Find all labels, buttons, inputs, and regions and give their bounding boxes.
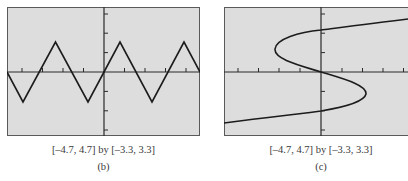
- caption-window-b: [–4.7, 4.7] by [–3.3, 3.3]: [7, 144, 200, 155]
- caption-label-b: (b): [7, 161, 200, 172]
- caption-window-c: [–4.7, 4.7] by [–3.3, 3.3]: [224, 144, 408, 155]
- plot-c-canvas: [224, 7, 408, 136]
- plot-c: [224, 7, 408, 136]
- caption-label-c: (c): [224, 161, 408, 172]
- plot-b: [7, 7, 200, 136]
- plot-b-canvas: [7, 7, 200, 136]
